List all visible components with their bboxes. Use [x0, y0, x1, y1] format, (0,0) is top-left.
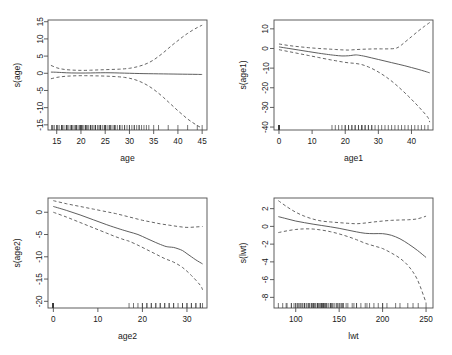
panel-age1: 010203040-40-30-20-10010age1s(age1): [226, 0, 452, 177]
upper-confidence-band: [279, 23, 430, 51]
y-tick-label: 5: [36, 53, 45, 58]
y-tick-label: -15: [36, 118, 45, 130]
y-tick-label: -10: [262, 62, 271, 74]
smooth-curves: [53, 201, 202, 290]
panel-age1-svg: 010203040-40-30-20-10010age1s(age1): [226, 0, 452, 177]
panel-age: 15202530354045-15-10-5051015ages(age): [0, 0, 226, 177]
x-tick-label: 100: [289, 315, 303, 324]
y-tick-label: -2: [262, 240, 271, 248]
y-tick-label: 0: [36, 71, 45, 76]
panel-age-svg: 15202530354045-15-10-5051015ages(age): [0, 0, 226, 177]
x-axis-title: age2: [118, 331, 137, 341]
rug-marks: [278, 303, 426, 308]
lower-confidence-band: [53, 212, 202, 289]
y-tick-label: -8: [262, 293, 271, 301]
x-tick-label: 25: [101, 137, 111, 146]
y-tick-label: -6: [262, 276, 271, 284]
x-tick-label: 30: [182, 315, 192, 324]
x-tick-label: 250: [419, 315, 433, 324]
y-tick-label: -10: [36, 101, 45, 113]
smooth-curves: [279, 23, 430, 123]
x-tick-label: 30: [374, 137, 384, 146]
smooth-curves: [278, 201, 426, 303]
x-tick-label: 0: [277, 137, 282, 146]
plot-frame: [274, 198, 433, 308]
x-tick-label: 150: [332, 315, 346, 324]
x-tick-label: 20: [341, 137, 351, 146]
y-tick-label: 10: [36, 34, 45, 44]
x-axis-title: age: [120, 153, 135, 163]
plot-frame: [274, 20, 433, 130]
y-tick-label: -20: [36, 295, 45, 307]
plot-frame: [48, 198, 207, 308]
y-tick-label: -30: [262, 101, 271, 113]
gam-smooth-plots-figure: 15202530354045-15-10-5051015ages(age) 01…: [0, 0, 452, 355]
fit-line: [53, 206, 202, 263]
x-axis-title: lwt: [348, 331, 359, 341]
y-tick-label: -20: [262, 81, 271, 93]
y-tick-label: 15: [36, 17, 45, 27]
y-axis-title: s(lwt): [238, 243, 248, 264]
y-tick-label: 2: [262, 206, 271, 211]
x-tick-label: 20: [76, 137, 86, 146]
x-tick-label: 40: [173, 137, 183, 146]
x-tick-label: 15: [52, 137, 62, 146]
rug-marks: [53, 303, 202, 308]
y-tick-label: -5: [36, 86, 45, 94]
panel-age2: 0102030-20-15-10-50age2s(age2): [0, 178, 226, 355]
lower-confidence-band: [279, 50, 430, 122]
x-tick-label: 20: [138, 315, 148, 324]
panel-lwt: 100150200250-8-6-4-202lwts(lwt): [226, 178, 452, 355]
y-axis-title: s(age1): [238, 60, 248, 89]
fit-line: [51, 72, 202, 74]
y-tick-label: -4: [262, 258, 271, 266]
y-axis-title: s(age2): [12, 238, 22, 267]
upper-confidence-band: [53, 201, 202, 228]
y-tick-label: 0: [36, 210, 45, 215]
y-tick-label: -10: [36, 250, 45, 262]
x-tick-label: 200: [376, 315, 390, 324]
x-tick-label: 0: [51, 315, 56, 324]
upper-confidence-band: [51, 25, 202, 70]
x-tick-label: 45: [198, 137, 208, 146]
x-axis-title: age1: [344, 153, 363, 163]
y-axis-title: s(age): [12, 63, 22, 87]
upper-confidence-band: [278, 201, 426, 224]
smooth-curves: [51, 25, 202, 128]
x-tick-label: 30: [125, 137, 135, 146]
lower-confidence-band: [278, 229, 426, 303]
y-tick-label: 0: [262, 224, 271, 229]
y-tick-label: 10: [262, 24, 271, 34]
x-tick-label: 10: [308, 137, 318, 146]
y-tick-label: -15: [36, 273, 45, 285]
y-tick-label: -40: [262, 121, 271, 133]
y-tick-label: -5: [36, 230, 45, 238]
rug-marks: [52, 125, 202, 130]
fit-line: [278, 217, 426, 258]
panel-age2-svg: 0102030-20-15-10-50age2s(age2): [0, 178, 226, 355]
x-tick-label: 40: [407, 137, 417, 146]
x-tick-label: 35: [149, 137, 159, 146]
panel-lwt-svg: 100150200250-8-6-4-202lwts(lwt): [226, 178, 452, 355]
fit-line: [279, 47, 430, 73]
lower-confidence-band: [51, 76, 202, 129]
y-tick-label: 0: [262, 46, 271, 51]
x-tick-label: 10: [93, 315, 103, 324]
rug-marks: [279, 125, 428, 130]
